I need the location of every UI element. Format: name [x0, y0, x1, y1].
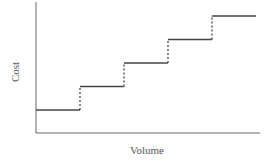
x-axis-label: Volume [130, 144, 164, 156]
y-axis-label: Cost [9, 62, 21, 82]
step-cost-chart: Cost Volume [0, 0, 272, 163]
axes [36, 2, 260, 133]
step-series [36, 16, 256, 110]
